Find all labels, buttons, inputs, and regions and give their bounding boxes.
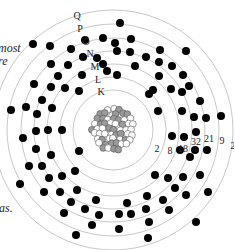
electron [60,209,68,217]
count-label-q: 2 [231,141,235,151]
electron [145,218,153,226]
electron [182,47,190,55]
electron [92,196,100,204]
electron [126,48,134,56]
electron [182,191,190,199]
electron [75,147,83,155]
electron [73,186,81,194]
electron [142,205,150,213]
electron [192,128,200,136]
electron [38,162,46,170]
electron [81,205,89,213]
electron [88,221,96,229]
shell-label-n: N [86,49,93,59]
shell-label-m: M [91,62,100,72]
electron [75,87,83,95]
electron [22,103,30,111]
electron [67,198,75,206]
electron [151,171,159,179]
electron [115,210,123,218]
count-label-o: 21 [204,134,214,144]
electron [38,96,46,104]
electron [191,146,199,154]
nucleon [115,146,122,153]
electron [165,206,173,214]
atom-svg [0,0,234,250]
electron [72,231,80,239]
electron [44,126,52,134]
electron [202,114,210,122]
electron [168,62,176,70]
nucleus [88,105,136,153]
text-fragment-re: re [0,55,8,67]
electron [64,61,72,69]
electron [203,146,211,154]
electron [45,174,53,182]
electron [159,196,167,204]
electron [7,106,15,114]
electron [171,184,179,192]
count-label-k: 2 [155,144,160,154]
electron [99,60,107,68]
electron [185,82,193,90]
shell-label-k: K [97,87,104,97]
count-label-m: 18 [178,144,188,154]
electron [180,133,188,141]
count-label-l: 8 [168,146,173,156]
count-label-n: 32 [191,137,201,147]
electron [217,112,225,120]
shell-label-l: L [95,75,101,85]
electron [25,162,33,170]
electron [32,145,40,153]
electron [178,88,186,96]
count-label-p: 9 [220,136,225,146]
electron [19,134,27,142]
electron [58,172,66,180]
electron [99,34,107,42]
electron [123,199,131,207]
electron [156,46,164,54]
electron [113,71,121,79]
electron [192,218,200,226]
electron [204,188,212,196]
electron [115,225,123,233]
electron [127,35,135,43]
electron [61,84,69,92]
electron [196,171,204,179]
electron [29,40,37,48]
electron [46,42,54,50]
shell-label-p: P [77,24,83,34]
electron [58,126,66,134]
electron [142,53,150,61]
electron [111,39,119,47]
atom-diagram: most re as. Q P O N M L K 2 8 18 32 21 9… [0,0,234,250]
electron [144,234,152,242]
electron [71,167,79,175]
electron [155,58,163,66]
electron [47,151,55,159]
electron [164,174,172,182]
electron [167,85,175,93]
electron [131,62,139,70]
electron [155,72,163,80]
electron [103,67,111,75]
text-fragment-most: most [0,42,21,54]
electron [32,127,40,135]
electron [54,72,62,80]
electron [143,192,151,200]
electron [113,47,121,55]
nucleon [123,140,130,147]
electron [33,110,41,118]
electron [95,211,103,219]
electron [16,180,24,188]
electron [78,71,86,79]
electron [179,71,187,79]
shell-label-q: Q [73,11,80,21]
electron [168,132,176,140]
electron [149,86,157,94]
electron [40,188,48,196]
electron [190,113,198,121]
electron [154,107,162,115]
text-fragment-as: as. [0,202,13,214]
electron [47,60,55,68]
